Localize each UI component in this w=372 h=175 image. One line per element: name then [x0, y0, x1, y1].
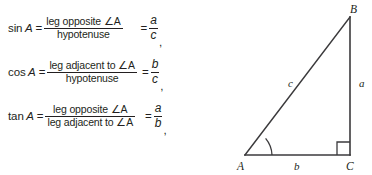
side-ratio-numerator-sine: a [149, 14, 158, 27]
denominator-tangent: leg adjacent to ∠A [45, 116, 135, 129]
equals-sign-2-cosine: = [138, 66, 151, 78]
right-triangle-diagram: A B C b a c [204, 0, 372, 175]
formula-row-cosine: cosA = leg adjacent to ∠A hypotenuse = b… [8, 50, 204, 94]
numerator-sine: leg opposite ∠A [44, 16, 122, 28]
right-angle-marker-icon [337, 142, 350, 155]
triangle-side-c-hypotenuse [245, 17, 350, 155]
angle-arc-marker-icon [266, 138, 272, 155]
formula-row-sine: sinA = leg opposite ∠A hypotenuse = a c … [8, 6, 204, 50]
denominator-sine: hypotenuse [44, 28, 122, 41]
equals-sign-tangent: = [34, 110, 46, 122]
function-name-sine: sinA [8, 22, 32, 34]
side-ratio-tangent: a b [154, 102, 163, 129]
equals-sign-sine: = [32, 22, 44, 34]
side-ratio-cosine: b c [151, 58, 160, 85]
equals-sign-cosine: = [36, 66, 48, 78]
trailing-comma-cosine: , [159, 80, 163, 94]
vertex-label-A: A [236, 160, 245, 172]
side-ratio-denominator-cosine: c [151, 72, 160, 86]
ratio-definition-cosine: leg adjacent to ∠A hypotenuse [47, 60, 137, 84]
function-name-cosine: cosA [8, 66, 36, 78]
side-ratio-numerator-cosine: b [151, 58, 160, 71]
vertex-label-C: C [346, 160, 354, 172]
vertex-label-B: B [350, 3, 357, 15]
ratio-definition-sine: leg opposite ∠A hypotenuse [44, 16, 122, 40]
ratio-definition-tangent: leg opposite ∠A leg adjacent to ∠A [45, 104, 135, 128]
side-ratio-denominator-tangent: b [154, 116, 163, 130]
side-label-c: c [288, 77, 293, 89]
numerator-cosine: leg adjacent to ∠A [47, 60, 137, 72]
equals-sign-2-sine: = [137, 22, 150, 34]
side-ratio-denominator-sine: c [149, 28, 158, 42]
trailing-comma-sine: , [158, 36, 162, 50]
numerator-tangent: leg opposite ∠A [51, 104, 129, 116]
denominator-cosine: hypotenuse [47, 72, 137, 85]
side-label-a: a [359, 77, 365, 89]
side-ratio-numerator-tangent: a [154, 102, 163, 115]
trailing-comma-tangent: , [162, 124, 166, 138]
equals-sign-2-tangent: = [141, 110, 154, 122]
trig-ratio-formula-list: sinA = leg opposite ∠A hypotenuse = a c … [8, 6, 204, 146]
side-label-b: b [294, 160, 300, 172]
side-ratio-sine: a c [149, 14, 158, 41]
formula-row-tangent: tanA = leg opposite ∠A leg adjacent to ∠… [8, 94, 204, 138]
function-name-tangent: tanA [8, 110, 34, 122]
